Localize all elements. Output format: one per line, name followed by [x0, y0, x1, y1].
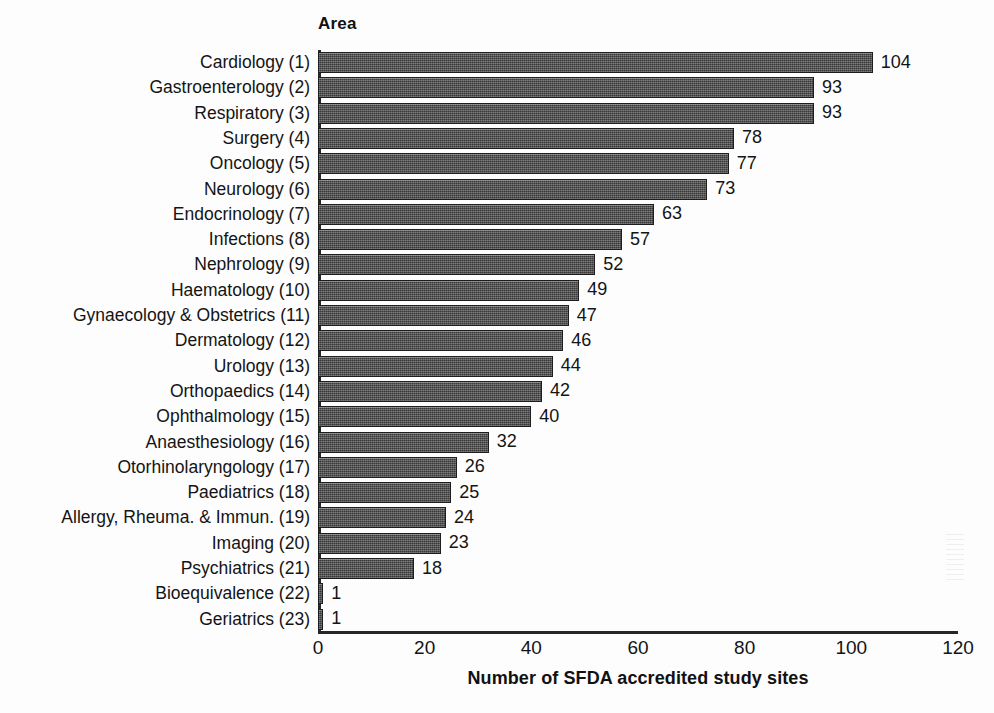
bar — [318, 432, 489, 453]
bar-value-label: 23 — [449, 532, 469, 553]
bar — [318, 103, 814, 124]
category-label: Ophthalmology (15) — [156, 406, 310, 427]
bar-row: 32 — [318, 432, 958, 453]
bar-row: 42 — [318, 381, 958, 402]
bar-value-label: 57 — [630, 229, 650, 250]
category-label: Haematology (10) — [171, 280, 310, 301]
x-axis-title: Number of SFDA accredited study sites — [318, 668, 958, 689]
x-tick-label: 0 — [313, 637, 324, 659]
bar — [318, 609, 323, 630]
bar-value-label: 47 — [577, 305, 597, 326]
bar — [318, 128, 734, 149]
bar-value-label: 93 — [822, 77, 842, 98]
bar-row: 24 — [318, 507, 958, 528]
bar-value-label: 40 — [539, 406, 559, 427]
bar-row: 63 — [318, 204, 958, 225]
bar — [318, 507, 446, 528]
category-label: Geriatrics (23) — [199, 609, 310, 630]
category-label: Cardiology (1) — [200, 52, 310, 73]
bar-row: 23 — [318, 533, 958, 554]
bar-row: 40 — [318, 406, 958, 427]
bar — [318, 52, 873, 73]
plot-area: 1049393787773635752494746444240322625242… — [318, 50, 958, 632]
category-label: Allergy, Rheuma. & Immun. (19) — [61, 507, 310, 528]
bar-row: 93 — [318, 77, 958, 98]
bar-value-label: 73 — [715, 178, 735, 199]
category-label: Urology (13) — [214, 356, 310, 377]
bar-row: 47 — [318, 305, 958, 326]
bar-value-label: 1 — [331, 608, 341, 629]
bar-row: 73 — [318, 179, 958, 200]
x-tick-label: 100 — [835, 637, 867, 659]
bar-value-label: 32 — [497, 431, 517, 452]
category-label: Orthopaedics (14) — [170, 381, 310, 402]
bar-row: 104 — [318, 52, 958, 73]
x-tick-label: 20 — [414, 637, 435, 659]
bar — [318, 558, 414, 579]
category-label: Neurology (6) — [204, 179, 310, 200]
bar-row: 1 — [318, 583, 958, 604]
category-label: Paediatrics (18) — [187, 482, 310, 503]
category-label: Otorhinolaryngology (17) — [117, 457, 310, 478]
bar — [318, 482, 451, 503]
bar — [318, 356, 553, 377]
bar-row: 1 — [318, 609, 958, 630]
bar-row: 77 — [318, 153, 958, 174]
bar-value-label: 78 — [742, 127, 762, 148]
bar-value-label: 24 — [454, 507, 474, 528]
bar-value-label: 46 — [571, 330, 591, 351]
category-label: Bioequivalence (22) — [155, 583, 310, 604]
bar — [318, 381, 542, 402]
bar — [318, 179, 707, 200]
bar-value-label: 1 — [331, 583, 341, 604]
bar — [318, 254, 595, 275]
bar-row: 78 — [318, 128, 958, 149]
bar-value-label: 77 — [737, 153, 757, 174]
bar-value-label: 49 — [587, 279, 607, 300]
bar — [318, 406, 531, 427]
bar — [318, 583, 323, 604]
x-axis-tick-labels: 020406080100120 — [318, 637, 958, 663]
bar-row: 25 — [318, 482, 958, 503]
bar-value-label: 25 — [459, 482, 479, 503]
category-label: Nephrology (9) — [194, 254, 310, 275]
bar-row: 44 — [318, 356, 958, 377]
bar-row: 18 — [318, 558, 958, 579]
bar — [318, 330, 563, 351]
bar-row: 52 — [318, 254, 958, 275]
bar — [318, 204, 654, 225]
bar — [318, 229, 622, 250]
bar-value-label: 104 — [881, 52, 911, 73]
bar-value-label: 44 — [561, 355, 581, 376]
category-label: Psychiatrics (21) — [181, 558, 310, 579]
category-label: Endocrinology (7) — [173, 204, 310, 225]
bar-row: 93 — [318, 103, 958, 124]
category-label: Imaging (20) — [212, 533, 310, 554]
bar-row: 49 — [318, 280, 958, 301]
bar-value-label: 63 — [662, 203, 682, 224]
category-label: Infections (8) — [209, 229, 310, 250]
category-label: Anaesthesiology (16) — [146, 432, 310, 453]
bar — [318, 305, 569, 326]
x-tick-label: 80 — [734, 637, 755, 659]
category-label: Oncology (5) — [210, 153, 310, 174]
bar-value-label: 18 — [422, 558, 442, 579]
bar — [318, 533, 441, 554]
area-column-header: Area — [318, 14, 357, 34]
category-label: Gynaecology & Obstetrics (11) — [73, 305, 310, 326]
bar — [318, 457, 457, 478]
x-tick-label: 60 — [627, 637, 648, 659]
bar — [318, 153, 729, 174]
category-label: Respiratory (3) — [194, 103, 310, 124]
category-label: Dermatology (12) — [175, 330, 310, 351]
bar — [318, 280, 579, 301]
bar-value-label: 42 — [550, 380, 570, 401]
bar-row: 57 — [318, 229, 958, 250]
category-axis-labels: Cardiology (1)Gastroenterology (2)Respir… — [0, 50, 314, 632]
x-tick-label: 120 — [942, 637, 974, 659]
bar-chart-figure: Area Cardiology (1)Gastroenterology (2)R… — [0, 0, 994, 713]
bar-value-label: 93 — [822, 102, 842, 123]
bar — [318, 77, 814, 98]
bar-row: 26 — [318, 457, 958, 478]
bar-row: 46 — [318, 330, 958, 351]
